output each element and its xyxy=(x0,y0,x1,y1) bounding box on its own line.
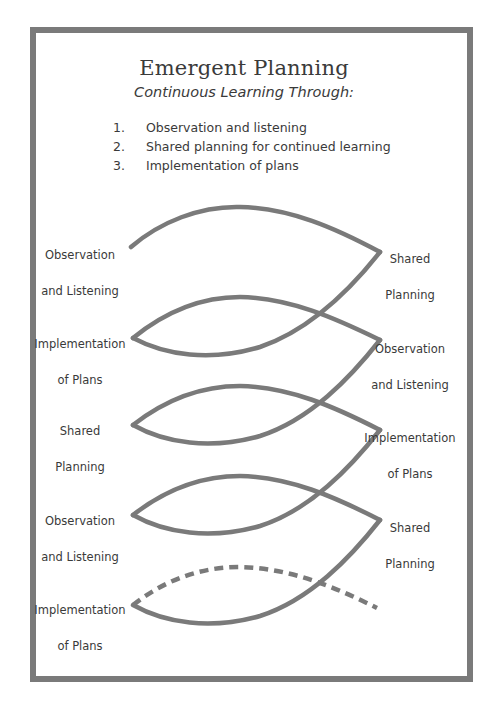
cycle-label-right-4: Shared Planning xyxy=(360,501,460,591)
label-line: of Plans xyxy=(360,465,460,483)
cycle-arc-forward-3 xyxy=(133,476,380,520)
cycle-label-left-1: Observation and Listening xyxy=(30,228,130,318)
label-line: Shared xyxy=(360,519,460,537)
cycle-arc-return-2 xyxy=(133,340,380,443)
label-line: Planning xyxy=(360,555,460,573)
label-line: Implementation xyxy=(360,429,460,447)
cycle-arc-return-4 xyxy=(133,520,380,623)
label-line: Observation xyxy=(30,246,130,264)
label-line: Planning xyxy=(30,458,130,476)
label-line: of Plans xyxy=(30,637,130,655)
label-line: Observation xyxy=(360,340,460,358)
label-line: Planning xyxy=(360,286,460,304)
label-line: Implementation xyxy=(30,335,130,353)
cycle-label-right-3: Implementation of Plans xyxy=(360,411,460,501)
cycle-arc-top xyxy=(131,207,380,252)
cycle-label-left-5: Implementation of Plans xyxy=(30,583,130,673)
cycle-arc-return-1 xyxy=(133,252,380,355)
label-line: Shared xyxy=(360,250,460,268)
cycle-label-left-2: Implementation of Plans xyxy=(30,317,130,407)
cycle-label-right-1: Shared Planning xyxy=(360,232,460,322)
cycle-label-left-3: Shared Planning xyxy=(30,404,130,494)
cycle-arc-forward-2 xyxy=(133,386,380,430)
cycle-label-right-2: Observation and Listening xyxy=(360,322,460,412)
label-line: Implementation xyxy=(30,601,130,619)
label-line: Observation xyxy=(30,512,130,530)
label-line: Shared xyxy=(30,422,130,440)
label-line: and Listening xyxy=(30,282,130,300)
cycle-label-left-4: Observation and Listening xyxy=(30,494,130,584)
label-line: of Plans xyxy=(30,371,130,389)
cycle-arc-forward-1 xyxy=(133,297,380,340)
cycle-arc-continuing-dashed xyxy=(133,567,377,608)
label-line: and Listening xyxy=(360,376,460,394)
label-line: and Listening xyxy=(30,548,130,566)
cycle-arc-return-3 xyxy=(133,430,380,533)
